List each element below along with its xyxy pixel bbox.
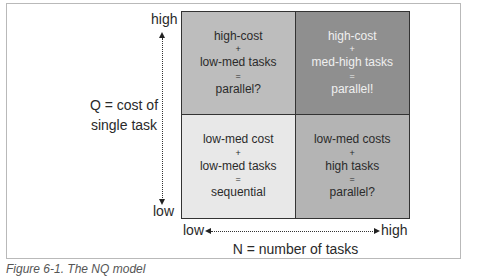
figure-caption: Figure 6-1. The NQ model <box>6 262 145 276</box>
x-axis-low-label: low <box>183 222 204 238</box>
y-axis-title-line2: single task <box>84 115 164 135</box>
quadrant-result: sequential <box>211 186 266 200</box>
y-axis-high-label: high <box>151 11 177 27</box>
quadrant-bottom-right: low-med costs + high tasks = parallel? <box>296 115 410 218</box>
x-axis-high-label: high <box>381 222 407 238</box>
quadrant-cost: low-med costs <box>314 133 391 147</box>
equals-sign: = <box>350 70 355 83</box>
quadrant-tasks: high tasks <box>325 160 379 174</box>
quadrant-cost: high-cost <box>328 30 377 44</box>
quadrant-cost: high-cost <box>214 30 263 44</box>
quadrant-tasks: low-med tasks <box>200 56 277 70</box>
arrow-right-icon <box>374 228 380 234</box>
quadrant-grid: high-cost + low-med tasks = parallel? hi… <box>181 11 410 219</box>
quadrant-tasks: med-high tasks <box>312 56 393 70</box>
plus-sign: + <box>236 147 241 160</box>
quadrant-result: parallel? <box>330 186 375 200</box>
y-axis-title-line1: Q = cost of <box>84 95 164 115</box>
equals-sign: = <box>236 70 241 83</box>
x-axis-arrow <box>211 231 377 232</box>
quadrant-bottom-left: low-med cost + low-med tasks = sequentia… <box>182 115 296 218</box>
quadrant-cost: low-med cost <box>203 133 274 147</box>
quadrant-top-left: high-cost + low-med tasks = parallel? <box>182 12 296 115</box>
y-axis-low-label: low <box>153 203 174 219</box>
quadrant-result: parallel! <box>331 83 373 97</box>
quadrant-tasks: low-med tasks <box>200 160 277 174</box>
y-axis-title: Q = cost of single task <box>84 95 164 135</box>
quadrant-top-right: high-cost + med-high tasks = parallel! <box>296 12 410 115</box>
quadrant-result: parallel? <box>216 83 261 97</box>
plus-sign: + <box>350 147 355 160</box>
x-axis-title: N = number of tasks <box>181 241 410 257</box>
